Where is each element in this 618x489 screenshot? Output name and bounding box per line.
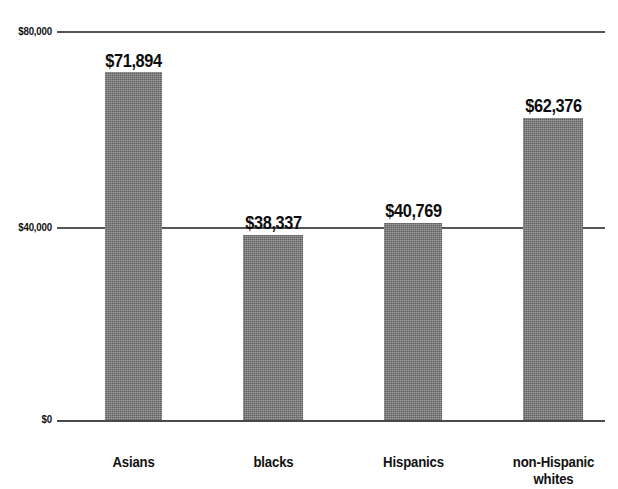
bar-hispanics	[384, 223, 442, 421]
value-label-hispanics: $40,769	[361, 200, 465, 222]
category-label-line-2: whites	[533, 470, 573, 487]
category-label-hispanics: Hispanics	[360, 453, 466, 470]
value-label-blacks: $38,337	[221, 212, 325, 234]
ytick-label-80000: $80,000	[6, 25, 52, 37]
bar-asians	[105, 72, 162, 421]
bar-blacks	[243, 235, 303, 421]
category-label-non-hispanic-whites: non-Hispanic whites	[500, 453, 606, 487]
ytick-label-0: $0	[6, 413, 52, 425]
category-label-asians: Asians	[80, 453, 186, 470]
plot-area: $80,000 $40,000 $0 $71,894 $38,337 $40,7…	[0, 0, 618, 489]
category-label-line-1: non-Hispanic	[513, 453, 594, 470]
gridline-baseline-0	[57, 420, 605, 422]
category-label-blacks: blacks	[220, 453, 326, 470]
gridline-80000	[57, 31, 605, 33]
ytick-label-40000: $40,000	[6, 221, 52, 233]
value-label-asians: $71,894	[81, 50, 185, 72]
bar-chart: $80,000 $40,000 $0 $71,894 $38,337 $40,7…	[0, 0, 618, 489]
bar-non-hispanic-whites	[523, 118, 583, 421]
value-label-non-hispanic-whites: $62,376	[501, 95, 605, 117]
